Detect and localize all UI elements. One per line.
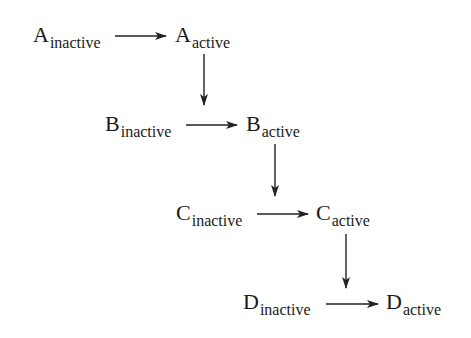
arrows-layer — [0, 0, 471, 338]
